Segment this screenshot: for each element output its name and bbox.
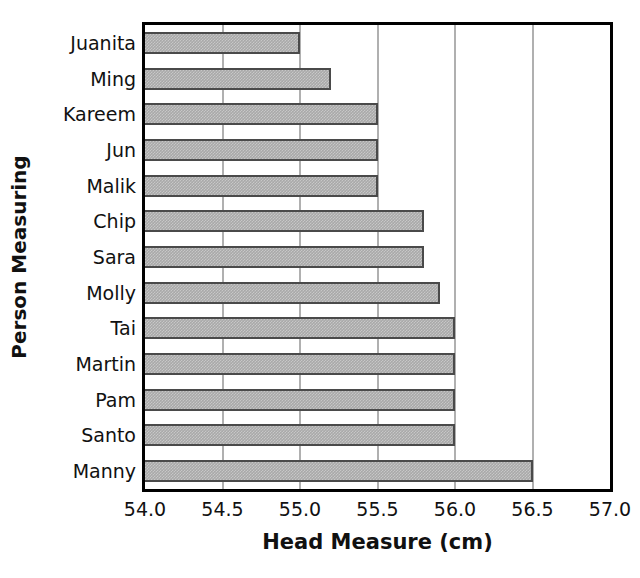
category-label-molly: Molly	[30, 282, 136, 304]
x-axis-tick-labels: 54.054.555.055.556.056.557.0	[142, 496, 613, 526]
x-tick-label: 56.5	[493, 496, 573, 522]
gridline	[454, 25, 456, 489]
category-axis-labels: JuanitaMingKareemJunMalikChipSaraMollyTa…	[30, 22, 136, 492]
category-label-juanita: Juanita	[30, 32, 136, 54]
category-label-manny: Manny	[30, 460, 136, 482]
bar	[145, 389, 455, 411]
bar	[145, 210, 424, 232]
category-label-jun: Jun	[30, 139, 136, 161]
gridline	[532, 25, 534, 489]
plot-inner	[145, 25, 610, 489]
category-label-chip: Chip	[30, 210, 136, 232]
x-tick-label: 55.0	[260, 496, 340, 522]
bar	[145, 68, 331, 90]
bar-chart: Person Measuring JuanitaMingKareemJunMal…	[0, 0, 640, 578]
category-label-malik: Malik	[30, 175, 136, 197]
bar	[145, 317, 455, 339]
x-tick-label: 54.0	[105, 496, 185, 522]
category-label-sara: Sara	[30, 246, 136, 268]
bar	[145, 460, 533, 482]
bar	[145, 282, 440, 304]
category-label-pam: Pam	[30, 389, 136, 411]
bar	[145, 424, 455, 446]
plot-area	[142, 22, 613, 492]
bar	[145, 353, 455, 375]
category-label-tai: Tai	[30, 317, 136, 339]
category-label-ming: Ming	[30, 68, 136, 90]
category-label-kareem: Kareem	[30, 103, 136, 125]
bar	[145, 175, 378, 197]
category-label-santo: Santo	[30, 424, 136, 446]
x-tick-label: 55.5	[338, 496, 418, 522]
x-tick-label: 57.0	[570, 496, 640, 522]
bar	[145, 246, 424, 268]
bar	[145, 139, 378, 161]
category-label-martin: Martin	[30, 353, 136, 375]
bar	[145, 103, 378, 125]
x-tick-label: 54.5	[183, 496, 263, 522]
x-tick-label: 56.0	[415, 496, 495, 522]
bar	[145, 32, 300, 54]
x-axis-title: Head Measure (cm)	[142, 530, 613, 554]
